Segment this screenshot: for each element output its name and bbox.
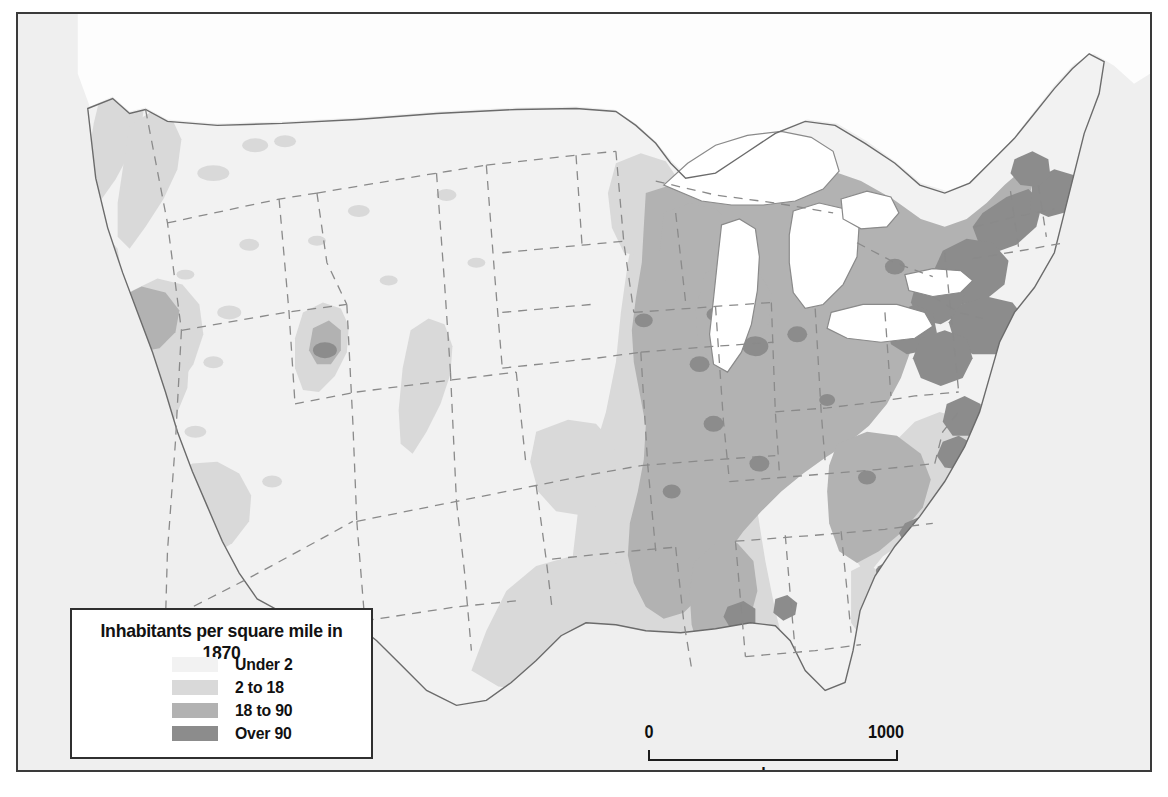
legend-row: Over 90 xyxy=(172,725,296,742)
legend-label-over-90: Over 90 xyxy=(235,724,292,744)
map-legend: Inhabitants per square mile in 1870 Unde… xyxy=(70,608,373,759)
legend-swatch-2-to-18 xyxy=(172,680,218,695)
map-frame: Inhabitants per square mile in 1870 Unde… xyxy=(16,12,1152,772)
scale-bar-unit-label: km xyxy=(657,764,889,772)
legend-swatch-18-to-90 xyxy=(172,703,218,718)
scale-bar-end-label: 1000 xyxy=(868,722,904,743)
scale-bar: 0 1000 km xyxy=(644,714,910,772)
legend-label-2-to-18: 2 to 18 xyxy=(235,678,284,698)
legend-swatch-under-2 xyxy=(172,657,218,672)
legend-row: 2 to 18 xyxy=(172,679,287,696)
map-page: Inhabitants per square mile in 1870 Unde… xyxy=(0,0,1168,797)
legend-swatch-over-90 xyxy=(172,726,218,741)
legend-row: Under 2 xyxy=(172,656,297,673)
scale-bar-line xyxy=(648,750,898,761)
legend-row: 18 to 90 xyxy=(172,702,297,719)
legend-label-under-2: Under 2 xyxy=(235,655,293,675)
scale-bar-start-label: 0 xyxy=(645,722,654,743)
legend-label-18-to-90: 18 to 90 xyxy=(235,701,292,721)
